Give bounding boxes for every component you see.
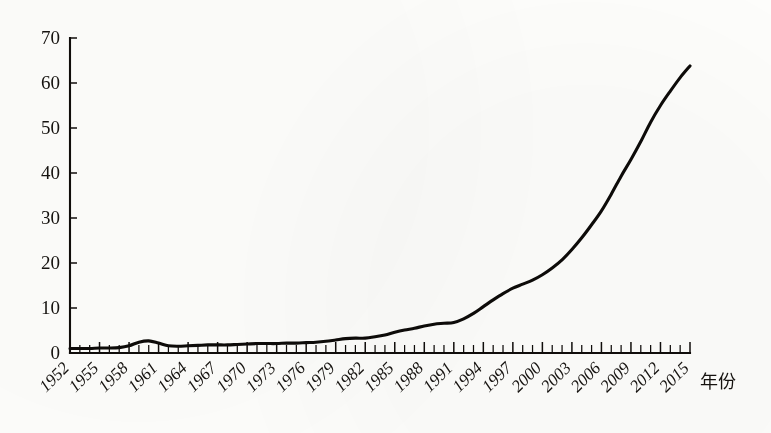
x-tick-label: 2009 xyxy=(596,358,634,396)
x-tick-label: 1952 xyxy=(35,358,73,396)
x-tick-label: 1994 xyxy=(449,358,487,396)
x-tick-label: 2000 xyxy=(508,358,546,396)
y-tick-label: 20 xyxy=(41,252,60,273)
x-tick-label: 1955 xyxy=(65,358,102,395)
y-tick-label: 40 xyxy=(41,162,60,183)
chart-figure: 010203040506070 195219551958196119641967… xyxy=(0,0,771,433)
y-tick-label: 60 xyxy=(41,72,60,93)
x-tick-label: 1964 xyxy=(153,358,191,396)
x-tick-label: 1961 xyxy=(124,358,161,395)
y-tick-label: 10 xyxy=(41,297,60,318)
x-tick-label: 2006 xyxy=(567,358,605,396)
y-tick-label: 30 xyxy=(41,207,60,228)
x-tick-label: 1973 xyxy=(242,358,279,395)
x-tick-label: 1997 xyxy=(478,357,517,396)
series-line xyxy=(70,66,690,349)
x-tick-label: 2003 xyxy=(537,358,574,395)
x-tick-label: 1988 xyxy=(390,358,428,396)
x-tick-label: 1970 xyxy=(212,358,250,396)
y-tick-label: 70 xyxy=(41,27,60,48)
x-tick-label: 1979 xyxy=(301,358,339,396)
x-tick-label: 1985 xyxy=(360,358,397,395)
x-tick-label: 1958 xyxy=(94,358,132,396)
x-tick-label: 2012 xyxy=(626,358,664,396)
x-tick-label: 2015 xyxy=(655,358,692,395)
x-tick-label: 1982 xyxy=(331,358,369,396)
x-tick-label: 1976 xyxy=(272,358,310,396)
data-series xyxy=(70,66,690,349)
x-tick-label: 1967 xyxy=(183,357,222,396)
x-axis-title: 年份 xyxy=(700,371,736,392)
y-tick-label: 50 xyxy=(41,117,60,138)
x-tick-labels: 1952195519581961196419671970197319761979… xyxy=(35,357,692,396)
line-chart: 010203040506070 195219551958196119641967… xyxy=(0,0,771,433)
x-tick-label: 1991 xyxy=(419,358,456,395)
y-axis: 010203040506070 xyxy=(41,27,77,363)
